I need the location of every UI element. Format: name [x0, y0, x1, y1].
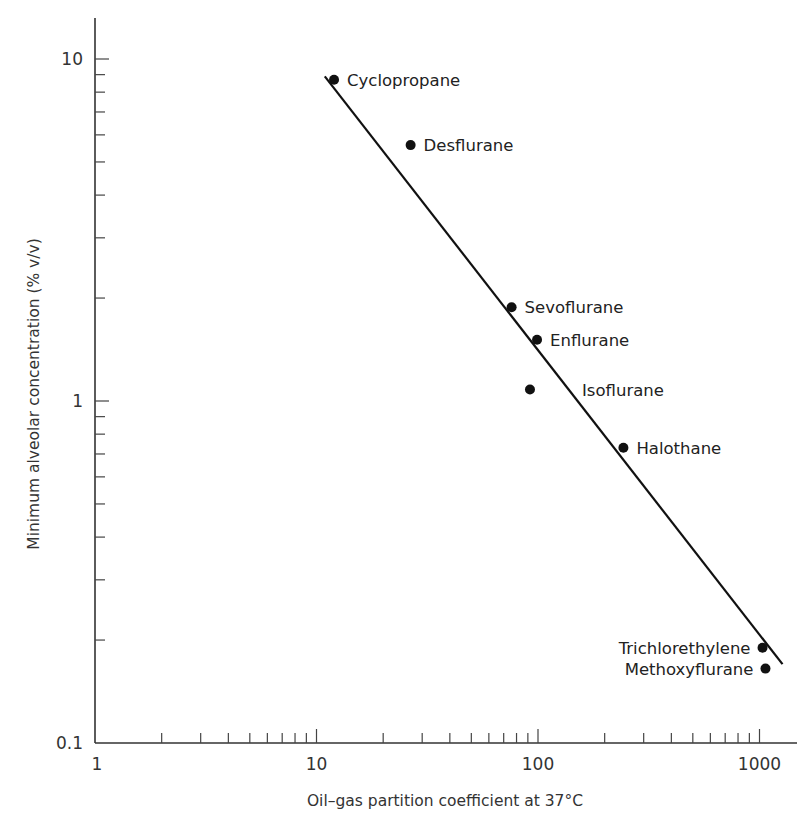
point-label: Isoflurane: [582, 381, 664, 400]
y-tick-label: 0.1: [56, 733, 83, 753]
data-points: CyclopropaneDesfluraneSevofluraneEnflura…: [329, 71, 770, 679]
point-label: Sevoflurane: [525, 298, 624, 317]
data-point: [618, 443, 628, 453]
data-point: [760, 664, 770, 674]
point-label: Cyclopropane: [347, 71, 460, 90]
x-axis-title: Oil–gas partition coefficient at 37°C: [307, 792, 583, 810]
data-point: [507, 302, 517, 312]
x-tick-label: 1: [92, 754, 103, 774]
axes: [95, 18, 797, 743]
y-tick-label: 10: [61, 49, 83, 69]
data-point: [758, 643, 768, 653]
x-tick-label: 10: [306, 754, 328, 774]
data-point: [406, 140, 416, 150]
data-point: [329, 75, 339, 85]
fit-line: [325, 76, 783, 664]
chart: 11010010000.1110 CyclopropaneDesfluraneS…: [0, 0, 811, 829]
x-tick-label: 1000: [738, 754, 781, 774]
y-axis-title: Minimum alveolar concentration (% v/v): [25, 238, 43, 549]
point-label: Desflurane: [424, 136, 514, 155]
x-tick-label: 100: [522, 754, 554, 774]
point-label: Trichlorethylene: [618, 639, 751, 658]
data-point: [532, 335, 542, 345]
point-label: Enflurane: [550, 331, 629, 350]
data-point: [525, 385, 535, 395]
y-tick-label: 1: [72, 391, 83, 411]
regression-line: [325, 76, 783, 664]
point-label: Methoxyflurane: [625, 660, 754, 679]
point-label: Halothane: [636, 439, 721, 458]
